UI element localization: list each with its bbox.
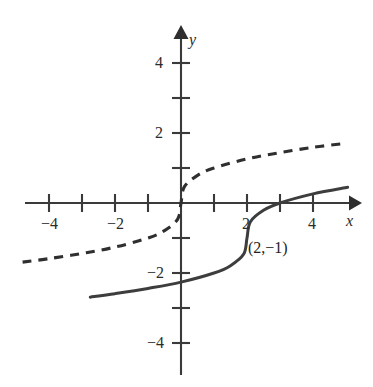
y-tick-label--4: −4 [147,335,164,351]
graph-figure: −4 −2 2 4 4 2 −2 −4 y x (2,−1) [0,0,373,387]
x-axis-label: x [346,213,353,229]
y-axis-arrow-icon [174,25,189,39]
x-tick-label--2: −2 [107,216,124,232]
x-axis-group [25,194,362,212]
y-tick-label-4: 4 [155,55,163,71]
x-tick-label--4: −4 [41,216,58,232]
cartesian-plot [0,0,373,387]
x-tick-label-2: 2 [242,216,250,232]
x-axis-arrow-icon [349,196,362,211]
y-tick-label-2: 2 [155,125,163,141]
y-axis-label: y [189,32,196,48]
point-annotation: (2,−1) [248,240,288,256]
y-tick-label--2: −2 [147,265,164,281]
x-tick-label-4: 4 [308,216,316,232]
